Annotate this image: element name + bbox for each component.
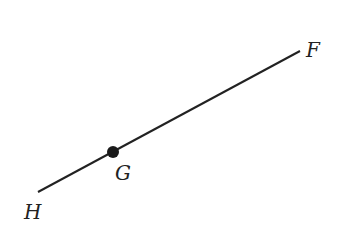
label-f: F [305, 38, 321, 62]
line-hf [38, 51, 300, 192]
label-g: G [115, 161, 131, 185]
point-g-dot [107, 146, 119, 158]
label-h: H [23, 200, 42, 224]
geometry-diagram: F G H [0, 0, 344, 230]
